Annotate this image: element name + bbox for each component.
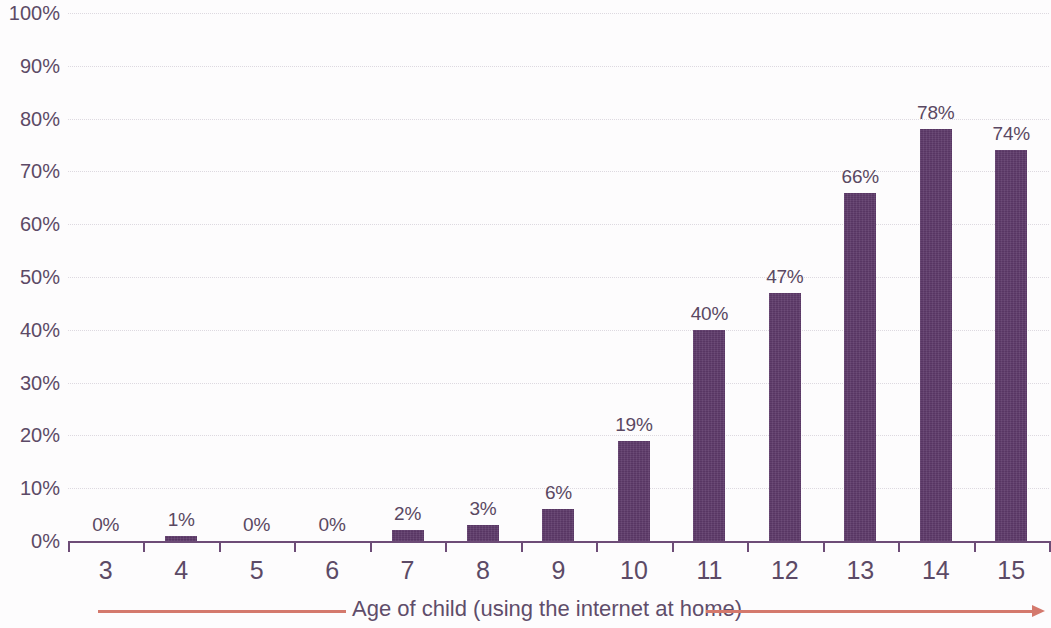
bar-value-label: 0% bbox=[319, 514, 346, 536]
x-axis-line bbox=[68, 541, 1049, 543]
bar-slot: 66% bbox=[823, 13, 898, 541]
y-axis-tick-label: 80% bbox=[0, 107, 60, 130]
bar-slot: 78% bbox=[898, 13, 973, 541]
arrow-line-left-icon bbox=[98, 610, 346, 613]
y-axis-tick-label: 70% bbox=[0, 160, 60, 183]
x-axis-tick-label: 7 bbox=[401, 556, 415, 585]
x-axis-tick-label: 15 bbox=[997, 556, 1025, 585]
bar-chart: 0%10%20%30%40%50%60%70%80%90%100% 0%1%0%… bbox=[0, 0, 1051, 628]
x-axis-tick-label: 6 bbox=[325, 556, 339, 585]
bar[interactable] bbox=[995, 150, 1027, 541]
bar-slot: 3% bbox=[445, 13, 520, 541]
x-axis-tick bbox=[747, 541, 749, 552]
y-axis-tick-label: 0% bbox=[0, 530, 60, 553]
bar-slot: 47% bbox=[747, 13, 822, 541]
x-axis-title-group: Age of child (using the internet at home… bbox=[0, 596, 1051, 628]
y-axis-tick-label: 10% bbox=[0, 477, 60, 500]
y-axis-tick-label: 30% bbox=[0, 371, 60, 394]
bar-slot: 1% bbox=[143, 13, 218, 541]
x-axis-tick bbox=[974, 541, 976, 552]
bar-slot: 0% bbox=[219, 13, 294, 541]
x-axis-tick bbox=[672, 541, 674, 552]
x-axis-tick-label: 12 bbox=[771, 556, 799, 585]
bar[interactable] bbox=[392, 530, 424, 541]
bar-value-label: 3% bbox=[469, 498, 496, 520]
bar-value-label: 2% bbox=[394, 503, 421, 525]
y-axis-tick-label: 20% bbox=[0, 424, 60, 447]
bar-slot: 0% bbox=[294, 13, 369, 541]
bars-layer: 0%1%0%0%2%3%6%19%40%47%66%78%74% bbox=[68, 13, 1049, 541]
bar-value-label: 47% bbox=[766, 266, 803, 288]
x-axis-tick-label: 5 bbox=[250, 556, 264, 585]
x-axis-tick bbox=[823, 541, 825, 552]
x-axis-tick bbox=[143, 541, 145, 552]
bar-slot: 2% bbox=[370, 13, 445, 541]
x-axis-tick-label: 11 bbox=[696, 556, 722, 585]
bar-value-label: 0% bbox=[92, 514, 119, 536]
x-axis-tick-label: 13 bbox=[846, 556, 874, 585]
bar-value-label: 66% bbox=[842, 166, 879, 188]
bar[interactable] bbox=[844, 193, 876, 541]
x-axis-tick bbox=[68, 541, 70, 552]
y-axis-tick-label: 40% bbox=[0, 318, 60, 341]
y-axis-tick-label: 50% bbox=[0, 266, 60, 289]
x-axis-tick-label: 10 bbox=[620, 556, 648, 585]
x-axis-title: Age of child (using the internet at home… bbox=[352, 596, 702, 622]
arrow-head-right-icon bbox=[1032, 605, 1045, 617]
bar[interactable] bbox=[920, 129, 952, 541]
x-axis-tick-label: 14 bbox=[922, 556, 950, 585]
bar-slot: 6% bbox=[521, 13, 596, 541]
bar[interactable] bbox=[693, 330, 725, 541]
bar-slot: 74% bbox=[974, 13, 1049, 541]
x-axis-tick-label: 8 bbox=[476, 556, 490, 585]
x-axis-tick bbox=[219, 541, 221, 552]
x-axis-tick bbox=[370, 541, 372, 552]
bar-value-label: 1% bbox=[168, 509, 195, 531]
bar[interactable] bbox=[769, 293, 801, 541]
x-axis-tick-label: 4 bbox=[174, 556, 188, 585]
bar[interactable] bbox=[542, 509, 574, 541]
bar-slot: 19% bbox=[596, 13, 671, 541]
bar-value-label: 6% bbox=[545, 482, 572, 504]
y-axis-tick-label: 60% bbox=[0, 213, 60, 236]
x-axis-tick bbox=[898, 541, 900, 552]
bar-value-label: 40% bbox=[691, 303, 728, 325]
y-axis-tick-label: 90% bbox=[0, 54, 60, 77]
bar[interactable] bbox=[618, 441, 650, 541]
bar-slot: 40% bbox=[672, 13, 747, 541]
bar[interactable] bbox=[467, 525, 499, 541]
x-axis-tick bbox=[596, 541, 598, 552]
bar-value-label: 0% bbox=[243, 514, 270, 536]
x-axis-tick-label: 3 bbox=[99, 556, 113, 585]
x-axis-labels: 3456789101112131415 bbox=[68, 556, 1049, 592]
x-axis-tick bbox=[521, 541, 523, 552]
bar-value-label: 74% bbox=[993, 123, 1030, 145]
arrow-line-right-icon bbox=[706, 610, 1036, 613]
bar-slot: 0% bbox=[68, 13, 143, 541]
y-axis-tick-label: 100% bbox=[0, 2, 60, 25]
x-axis-tick bbox=[445, 541, 447, 552]
x-axis-tick bbox=[294, 541, 296, 552]
bar-value-label: 78% bbox=[917, 102, 954, 124]
bar-value-label: 19% bbox=[615, 414, 652, 436]
x-axis-tick-label: 9 bbox=[552, 556, 566, 585]
